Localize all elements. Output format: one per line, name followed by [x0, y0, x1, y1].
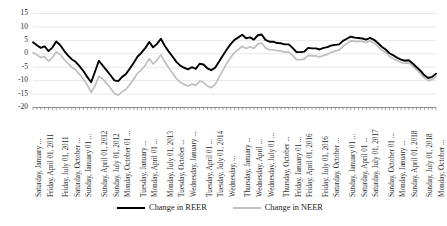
data-series-group	[33, 34, 436, 95]
x-axis-tick-label: Monday, October ...	[439, 140, 447, 197]
y-axis-tick-label: 10	[2, 23, 28, 31]
line-swatch-black-icon	[117, 207, 145, 209]
legend-label-reer: Change in REER	[149, 203, 207, 212]
y-axis-tick-label: 5	[2, 36, 28, 44]
line-swatch-gray-icon	[233, 207, 261, 209]
gridlines-group	[33, 14, 436, 108]
y-axis-tick-label: 0	[2, 49, 28, 57]
legend-item-reer[interactable]: Change in REER	[117, 203, 207, 212]
chart-legend: Change in REER Change in NEER	[0, 203, 440, 212]
series-line-reer	[33, 34, 436, 82]
y-axis-tick-label: -10	[2, 76, 28, 84]
y-axis-tick-label: 15	[2, 9, 28, 17]
series-line-neer	[33, 41, 436, 95]
legend-label-neer: Change in NEER	[265, 203, 323, 212]
y-axis-tick-label: -15	[2, 90, 28, 98]
y-axis-tick-label: -20	[2, 103, 28, 111]
y-axis-tick-label: -5	[2, 63, 28, 71]
legend-item-neer[interactable]: Change in NEER	[233, 203, 323, 212]
